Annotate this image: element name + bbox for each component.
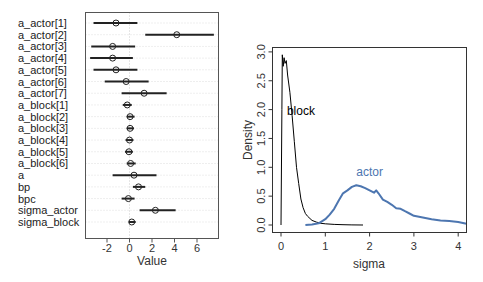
x-tick-label: 2 [149, 242, 155, 254]
coef-x-axis-title: Value [137, 254, 167, 268]
x-tick-label: 1 [322, 240, 328, 252]
param-label: a_block[6] [18, 157, 68, 169]
density-plot: 01234 0.00.51.01.52.02.53.0 blockactor s… [241, 44, 467, 271]
density-y-axis: 0.00.51.01.52.02.53.0 [255, 44, 273, 232]
param-label: a_actor[4] [18, 52, 67, 64]
density-lines [281, 55, 467, 225]
param-label: a_block[4] [18, 134, 68, 146]
x-tick-label: 0 [278, 240, 284, 252]
x-tick-label: 4 [171, 242, 177, 254]
param-label: bp [18, 181, 30, 193]
density-line-block [281, 55, 363, 225]
param-label: a_actor[7] [18, 87, 67, 99]
y-tick-label: 2.5 [255, 73, 267, 88]
param-label: sigma_actor [18, 204, 78, 216]
annotation-actor: actor [356, 165, 383, 179]
param-label: a_actor[1] [18, 17, 67, 29]
coef-marks [90, 20, 214, 225]
param-label: a_actor[6] [18, 76, 67, 88]
figure: a_actor[1]a_actor[2]a_actor[3]a_actor[4]… [0, 0, 483, 282]
x-tick-label: 2 [367, 240, 373, 252]
density-x-axis-title: sigma [353, 257, 385, 271]
param-label: a_actor[2] [18, 29, 67, 41]
x-tick-label: 3 [411, 240, 417, 252]
coef-x-axis: -20246 [102, 239, 200, 255]
x-tick-label: 0 [126, 242, 132, 254]
param-label: a_block[1] [18, 99, 68, 111]
param-label: sigma_block [18, 216, 80, 228]
density-plot-frame [273, 48, 467, 233]
density-x-axis: 01234 [278, 233, 461, 253]
param-label: a_actor[5] [18, 64, 67, 76]
density-line-actor [305, 185, 466, 225]
annotation-block: block [287, 104, 316, 118]
y-tick-label: 0.0 [255, 217, 267, 232]
density-annotations: blockactor [287, 104, 383, 179]
y-tick-label: 2.0 [255, 102, 267, 117]
density-y-axis-title: Density [241, 120, 255, 160]
coef-row-labels: a_actor[1]a_actor[2]a_actor[3]a_actor[4]… [18, 17, 80, 228]
coef-plot: a_actor[1]a_actor[2]a_actor[3]a_actor[4]… [18, 13, 219, 269]
x-tick-label: -2 [102, 242, 112, 254]
param-label: bpc [18, 193, 36, 205]
param-label: a_block[5] [18, 146, 68, 158]
param-label: a_block[2] [18, 111, 68, 123]
x-tick-label: 6 [194, 242, 200, 254]
y-tick-label: 0.5 [255, 189, 267, 204]
param-label: a_actor[3] [18, 40, 67, 52]
x-tick-label: 4 [455, 240, 461, 252]
y-tick-label: 3.0 [255, 44, 267, 59]
param-label: a [18, 169, 25, 181]
y-tick-label: 1.0 [255, 160, 267, 175]
param-label: a_block[3] [18, 122, 68, 134]
y-tick-label: 1.5 [255, 131, 267, 146]
